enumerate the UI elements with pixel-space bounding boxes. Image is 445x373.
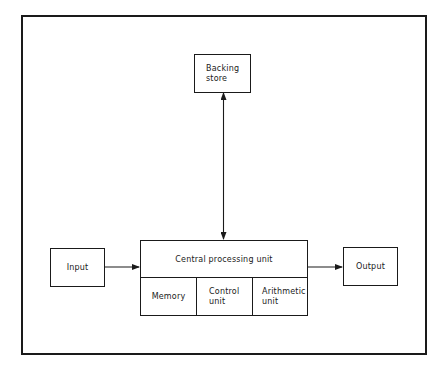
backing-store-label-line1: Backing bbox=[206, 64, 239, 74]
control-unit-label-line1: Control bbox=[209, 287, 239, 297]
cpu-title: Central processing unit bbox=[141, 241, 307, 278]
cpu-memory-cell: Memory bbox=[141, 278, 197, 316]
backing-store-label-line2: store bbox=[206, 74, 227, 84]
memory-label: Memory bbox=[152, 292, 186, 302]
control-unit-label-line2: unit bbox=[209, 297, 225, 307]
input-label: Input bbox=[67, 263, 89, 272]
backing-store-box: Backing store bbox=[194, 54, 251, 93]
cpu-control-unit-cell: Control unit bbox=[197, 278, 253, 316]
cpu-arithmetic-unit-cell: Arithmetic unit bbox=[253, 278, 308, 316]
input-box: Input bbox=[50, 248, 105, 287]
arithmetic-unit-label-line2: unit bbox=[262, 297, 278, 307]
output-label: Output bbox=[356, 262, 385, 271]
output-box: Output bbox=[343, 247, 398, 286]
arithmetic-unit-label-line1: Arithmetic bbox=[262, 287, 306, 297]
cpu-box: Central processing unit Memory Control u… bbox=[140, 240, 308, 316]
